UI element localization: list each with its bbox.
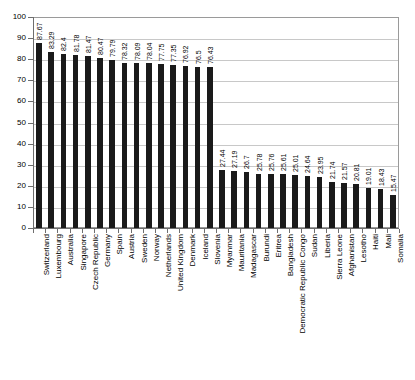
bar-value-label: 21.57: [341, 162, 348, 180]
bar-slot: 23.95: [314, 17, 326, 228]
bar: [73, 55, 79, 228]
x-axis-tick: [387, 229, 388, 233]
y-axis-tick-label: 80: [17, 55, 26, 63]
x-axis-tick: [240, 229, 241, 233]
bar-slot: 15.47: [387, 17, 399, 228]
bar: [97, 58, 103, 228]
bar-value-label: 77.75: [158, 43, 165, 61]
bar-slot: 21.57: [338, 17, 350, 228]
y-axis-tick-label: 50: [17, 119, 26, 127]
x-axis-tick: [277, 229, 278, 233]
x-axis-tick: [301, 229, 302, 233]
bar-value-label: 83.29: [48, 32, 55, 50]
x-axis-tick: [82, 229, 83, 233]
x-axis-tick: [131, 229, 132, 233]
bar-slot: 20.81: [350, 17, 362, 228]
x-axis-label: Myanmar: [226, 234, 234, 267]
bar: [48, 52, 54, 228]
bar-slot: 25.76: [265, 17, 277, 228]
bar: [170, 65, 176, 228]
y-axis-tick-label: 70: [17, 76, 26, 84]
bar-slot: 27.19: [228, 17, 240, 228]
bar-value-label: 24.64: [304, 155, 311, 173]
bar-slot: 21.74: [326, 17, 338, 228]
bar: [366, 188, 372, 228]
bar-slot: 19.01: [362, 17, 374, 228]
x-axis-tick: [192, 229, 193, 233]
x-axis-label: Eritrea: [274, 234, 282, 258]
bar-slot: 76.5: [192, 17, 204, 228]
x-axis-tick: [399, 229, 400, 233]
bar-slot: 27.44: [216, 17, 228, 228]
x-axis-label: Slovenia: [213, 234, 221, 265]
x-axis-tick: [228, 229, 229, 233]
x-axis-tick: [57, 229, 58, 233]
x-axis-label: Netherlands: [165, 234, 173, 277]
x-axis-label: Australia: [67, 234, 75, 265]
bar-chart: 0102030405060708090100 87.6783.2982.481.…: [0, 0, 415, 380]
bar: [280, 174, 286, 228]
x-axis-tick: [106, 229, 107, 233]
bar-value-label: 78.09: [133, 43, 140, 61]
x-axis-label: United Kingdom: [177, 234, 185, 291]
y-axis-tick-label: 30: [17, 161, 26, 169]
x-axis-tick: [155, 229, 156, 233]
bar: [61, 54, 67, 228]
bar: [292, 175, 298, 228]
bar-slot: 80.47: [94, 17, 106, 228]
y-axis-tick-label: 10: [17, 203, 26, 211]
y-axis-tick-label: 0: [22, 224, 26, 232]
x-axis-label: Switzerland: [43, 234, 51, 275]
bar-value-label: 25.76: [267, 153, 274, 171]
x-axis-tick: [70, 229, 71, 233]
bar-slot: 83.29: [45, 17, 57, 228]
x-axis-tick: [362, 229, 363, 233]
bar: [109, 60, 115, 228]
x-axis-label: Singapore: [79, 234, 87, 270]
x-axis-label: Czech Republic: [91, 234, 99, 290]
x-axis-tick: [375, 229, 376, 233]
bar-value-label: 19.01: [365, 167, 372, 185]
bar: [378, 189, 384, 228]
bar-value-label: 27.19: [231, 150, 238, 168]
bar-slot: 87.67: [33, 17, 45, 228]
bars-layer: 87.6783.2982.481.7881.4780.4779.7978.327…: [33, 17, 399, 228]
y-axis: 0102030405060708090100: [0, 17, 33, 228]
x-axis-label: Haiti: [372, 234, 380, 250]
bar-slot: 26.7: [240, 17, 252, 228]
bar-slot: 25.61: [277, 17, 289, 228]
bar: [183, 66, 189, 228]
bar-slot: 24.64: [301, 17, 313, 228]
x-axis-tick: [326, 229, 327, 233]
bar-slot: 78.04: [143, 17, 155, 228]
bar-value-label: 25.78: [255, 153, 262, 171]
y-axis-tick-label: 20: [17, 182, 26, 190]
bar: [256, 174, 262, 228]
bar: [329, 182, 335, 228]
bar-value-label: 25.01: [292, 155, 299, 173]
bar-value-label: 81.47: [84, 36, 91, 54]
x-axis-label: Bangladesh: [287, 234, 295, 276]
x-axis-tick: [204, 229, 205, 233]
bar: [85, 56, 91, 228]
bar: [268, 174, 274, 228]
x-axis-label: Sierra Leone: [335, 234, 343, 280]
x-axis-label: Afghanistan: [348, 234, 356, 276]
x-axis-tick: [143, 229, 144, 233]
bar-value-label: 81.78: [72, 35, 79, 53]
x-axis-tick: [118, 229, 119, 233]
x-axis-label: Luxembourg: [55, 234, 63, 278]
x-axis-label: Iceland: [201, 234, 209, 260]
bar: [353, 184, 359, 228]
bar-value-label: 76.92: [182, 45, 189, 63]
bar: [305, 176, 311, 228]
bar-slot: 78.09: [131, 17, 143, 228]
bar: [341, 183, 347, 229]
x-axis-label: Mauritania: [238, 234, 246, 271]
x-axis-tick: [179, 229, 180, 233]
bar-slot: 25.78: [253, 17, 265, 228]
bar-value-label: 78.32: [121, 42, 128, 60]
x-axis-tick: [350, 229, 351, 233]
bar: [231, 171, 237, 228]
bar-value-label: 27.44: [219, 150, 226, 168]
